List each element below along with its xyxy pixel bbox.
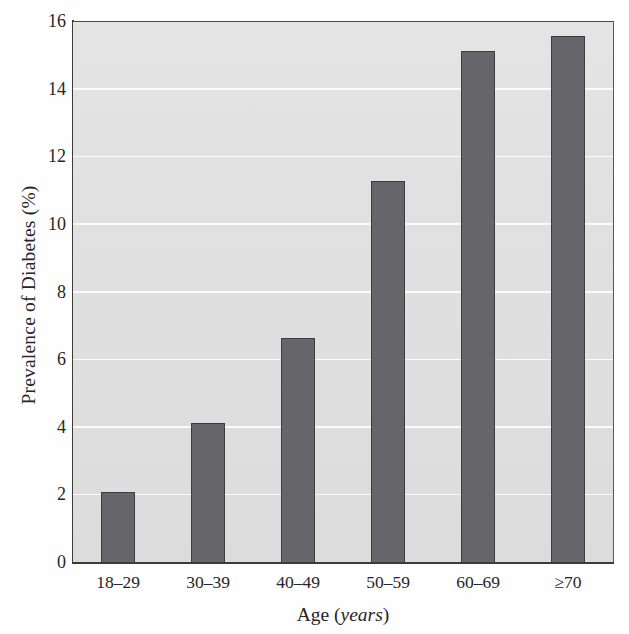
y-tick-label: 4 bbox=[4, 418, 66, 436]
y-axis-tick-labels: 0246810121416 bbox=[0, 0, 66, 634]
y-tick-label: 2 bbox=[4, 485, 66, 503]
x-tick-label: 60–69 bbox=[456, 572, 500, 593]
x-tick-label: 30–39 bbox=[186, 572, 230, 593]
x-axis-spine bbox=[72, 562, 614, 564]
y-tick-label: 14 bbox=[4, 80, 66, 98]
y-tick-label: 16 bbox=[4, 12, 66, 30]
y-tick-label: 12 bbox=[4, 147, 66, 165]
y-tick-label: 0 bbox=[4, 553, 66, 571]
x-tick-label: ≥70 bbox=[554, 572, 581, 593]
bar[interactable] bbox=[191, 423, 225, 563]
bar[interactable] bbox=[551, 36, 585, 563]
y-tick-label: 10 bbox=[4, 215, 66, 233]
bar[interactable] bbox=[101, 492, 135, 563]
x-axis-title-text: Age ( bbox=[297, 604, 341, 625]
bar[interactable] bbox=[461, 51, 495, 563]
x-axis-title: Age (years) bbox=[73, 604, 613, 626]
bar-chart-figure: Prevalence of Diabetes (%) 0246810121416… bbox=[0, 0, 629, 634]
x-axis-title-close: ) bbox=[383, 604, 390, 625]
plot-area bbox=[73, 21, 614, 563]
x-axis-title-unit: years bbox=[341, 604, 383, 625]
y-tick-label: 8 bbox=[4, 283, 66, 301]
x-axis-tick-labels: 18–2930–3940–4950–5960–69≥70 bbox=[73, 572, 613, 598]
x-tick-label: 18–29 bbox=[96, 572, 140, 593]
bars-layer bbox=[73, 22, 613, 563]
bar[interactable] bbox=[281, 338, 315, 563]
bar[interactable] bbox=[371, 181, 405, 563]
x-tick-label: 40–49 bbox=[276, 572, 320, 593]
x-tick-label: 50–59 bbox=[366, 572, 410, 593]
y-tick-label: 6 bbox=[4, 350, 66, 368]
